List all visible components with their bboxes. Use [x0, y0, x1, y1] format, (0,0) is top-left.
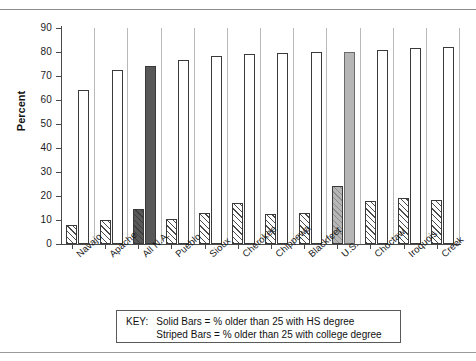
category-separator	[260, 28, 261, 244]
y-tick	[56, 244, 61, 245]
bar-striped-cherokee	[232, 203, 243, 244]
y-tick-label: 70	[6, 70, 52, 81]
key-legend-box: KEY: Solid Bars = % older than 25 with H…	[116, 310, 401, 343]
bar-solid-cherokee	[244, 54, 255, 244]
y-tick	[56, 52, 61, 53]
y-tick-label: 60	[6, 94, 52, 105]
category-separator	[326, 28, 327, 244]
category-separator	[94, 28, 95, 244]
category-separator	[459, 28, 460, 244]
category-separator	[393, 28, 394, 244]
y-tick	[56, 172, 61, 173]
x-tick	[138, 244, 139, 249]
scan-rule-bottom	[0, 352, 476, 353]
bar-solid-choctaw	[377, 50, 388, 244]
bar-striped-navajo	[66, 225, 77, 244]
bar-solid-navajo	[78, 90, 89, 244]
x-tick	[404, 244, 405, 249]
y-tick-label: 90	[6, 22, 52, 33]
bar-solid-sioux	[211, 56, 222, 244]
chart-page: Percent 0102030405060708090 NavajoApache…	[0, 0, 476, 361]
y-tick	[56, 28, 61, 29]
bar-solid-chippewa	[277, 53, 288, 244]
bar-solid-creek	[443, 47, 454, 244]
scan-rule-top	[0, 9, 476, 10]
bar-solid-pueblo	[178, 60, 189, 244]
category-separator	[426, 28, 427, 244]
bar-solid-apache	[112, 70, 123, 244]
category-separator	[194, 28, 195, 244]
x-tick	[437, 244, 438, 249]
y-tick	[56, 124, 61, 125]
category-separator	[127, 28, 128, 244]
category-separator	[227, 28, 228, 244]
category-separator	[293, 28, 294, 244]
key-line-solid: Solid Bars = % older than 25 with HS deg…	[156, 316, 381, 327]
x-tick	[171, 244, 172, 249]
x-tick	[238, 244, 239, 249]
bar-solid-u-s-	[344, 52, 355, 244]
x-tick	[205, 244, 206, 249]
plot-area	[62, 28, 460, 244]
x-tick	[271, 244, 272, 249]
y-tick	[56, 148, 61, 149]
y-tick-label: 40	[6, 142, 52, 153]
key-line-striped: Striped Bars = % older than 25 with coll…	[156, 329, 381, 340]
y-tick	[56, 76, 61, 77]
y-tick	[56, 196, 61, 197]
y-tick-label: 0	[6, 238, 52, 249]
y-tick-label: 10	[6, 214, 52, 225]
bar-solid-all-n-a-	[145, 66, 156, 244]
x-tick	[337, 244, 338, 249]
bar-solid-iroquois	[410, 48, 421, 244]
y-tick-label: 50	[6, 118, 52, 129]
key-label: KEY:	[126, 316, 148, 340]
bar-striped-choctaw	[365, 201, 376, 244]
bar-solid-blackfeet	[311, 52, 322, 244]
y-tick-label: 30	[6, 166, 52, 177]
x-tick	[304, 244, 305, 249]
x-tick	[72, 244, 73, 249]
y-tick-label: 80	[6, 46, 52, 57]
x-tick	[370, 244, 371, 249]
y-tick	[56, 220, 61, 221]
x-tick	[105, 244, 106, 249]
category-separator	[161, 28, 162, 244]
y-tick	[56, 100, 61, 101]
category-separator	[360, 28, 361, 244]
y-tick-label: 20	[6, 190, 52, 201]
